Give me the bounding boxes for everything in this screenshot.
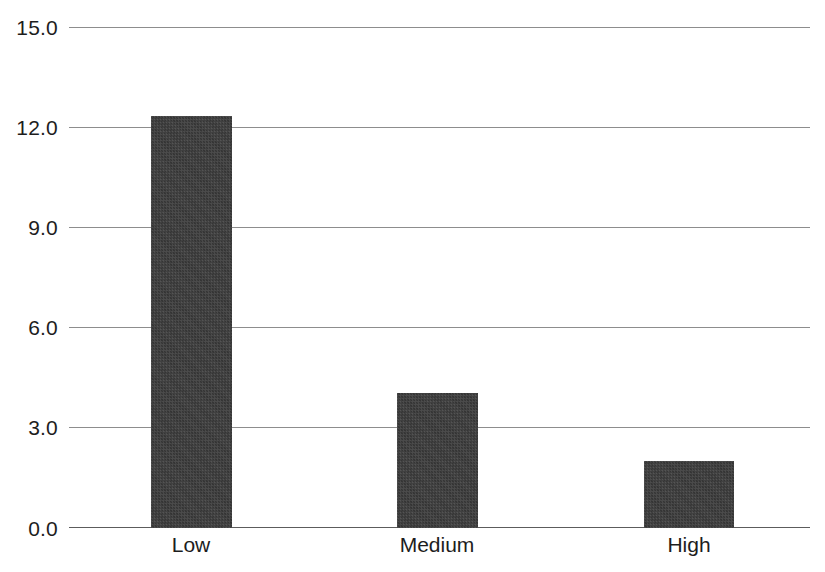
plot-area — [69, 27, 810, 528]
y-axis-tick-label-12: 12.0 — [16, 117, 58, 138]
y-axis-tick-label-9: 9.0 — [28, 217, 58, 238]
y-axis-tick-label-6: 6.0 — [28, 317, 58, 338]
bar-medium — [397, 393, 478, 528]
y-axis-tick-label-3: 3.0 — [28, 417, 58, 438]
bar-high — [644, 461, 734, 528]
x-axis-label-group: Low Medium High — [0, 534, 825, 572]
gridline-15 — [69, 27, 810, 28]
y-axis-tick-label-15: 15.0 — [16, 17, 58, 38]
x-axis-tick-label-high: High — [667, 534, 710, 556]
bar-low — [151, 116, 232, 528]
x-axis-tick-label-low: Low — [172, 534, 211, 556]
x-axis-tick-label-medium: Medium — [400, 534, 475, 556]
y-axis-label-group: 15.0 12.0 9.0 6.0 3.0 0.0 — [0, 0, 60, 572]
bar-chart: 15.0 12.0 9.0 6.0 3.0 0.0 Low Medium Hig… — [0, 0, 825, 572]
